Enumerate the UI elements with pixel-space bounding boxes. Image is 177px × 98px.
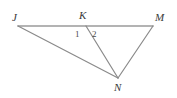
- vertex-label-m: M: [155, 12, 164, 23]
- geometry-canvas: [0, 0, 177, 98]
- vertex-label-k: K: [79, 10, 86, 21]
- angle-label-1: 1: [75, 30, 80, 39]
- geometry-figure: J K M N 1 2: [0, 0, 177, 98]
- segment-jn: [18, 26, 118, 78]
- vertex-label-n: N: [114, 82, 121, 93]
- vertex-label-j: J: [12, 12, 17, 23]
- segment-mn: [118, 26, 153, 78]
- angle-label-2: 2: [92, 30, 97, 39]
